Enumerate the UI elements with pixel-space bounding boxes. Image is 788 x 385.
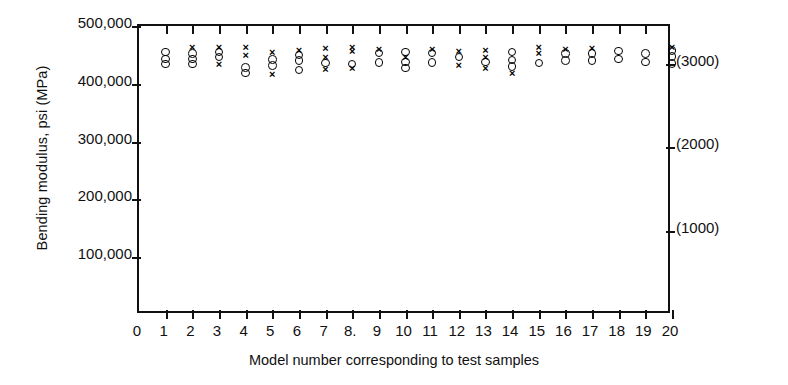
x-axis-tick-top [539,26,541,34]
y-axis-tick-label: 200,000 [52,187,132,204]
y-axis-tick-label: 500,000 [52,14,132,31]
data-point-circle [588,56,597,65]
data-point-circle [561,56,570,65]
x-axis-tick [592,310,594,319]
x-axis-tick-top [459,26,461,34]
secondary-y-axis-tick [666,231,675,233]
secondary-y-axis-tick-label: (1000) [676,219,719,236]
data-point-circle [295,66,304,75]
x-axis-tick [246,310,248,319]
x-axis-tick-top [512,26,514,34]
data-point-circle [641,58,650,67]
data-point-cross: × [241,50,251,60]
x-axis-tick-top [565,26,567,34]
data-point-circle [161,60,170,69]
secondary-y-axis-tick [666,147,675,149]
data-point-cross: × [374,44,384,54]
data-point-circle [295,56,304,65]
data-point-cross: × [427,44,437,54]
data-point-circle [668,59,677,68]
y-axis-tick [132,84,141,86]
x-axis-tick [272,310,274,319]
x-axis-tick [672,310,674,319]
data-point-cross: × [560,44,570,54]
data-point-circle [614,47,623,56]
x-axis-tick [432,310,434,319]
x-axis-tick-top [272,26,274,34]
x-axis-tick [485,310,487,319]
data-point-cross: × [587,43,597,53]
secondary-y-axis-tick-label: (2000) [676,135,719,152]
x-axis-tick [192,310,194,319]
y-axis-tick-label: 100,000 [52,245,132,262]
y-axis-tick [132,26,141,28]
x-axis-tick-top [406,26,408,34]
x-axis-tick [352,310,354,319]
y-axis-tick [132,199,141,201]
data-point-circle [188,60,197,69]
y-axis-tick [132,257,141,259]
data-point-circle [641,49,650,58]
y-axis-tick-label: 300,000 [52,130,132,147]
x-axis-tick [512,310,514,319]
data-point-cross: × [267,69,277,79]
x-axis-tick-top [592,26,594,34]
x-axis-tick-label: 20 [653,322,687,339]
x-axis-tick [379,310,381,319]
x-axis-tick [166,310,168,319]
x-axis-tick-top [485,26,487,34]
y-axis-tick-label: 400,000 [52,72,132,89]
data-point-cross: × [401,52,411,62]
data-point-cross: × [214,59,224,69]
data-point-circle [535,59,544,68]
data-point-cross: × [214,42,224,52]
data-point-cross: × [347,46,357,56]
x-axis-title: Model number corresponding to test sampl… [0,352,788,368]
secondary-y-axis-tick-label: (3000) [676,52,719,69]
data-point-circle [428,58,437,67]
data-point-cross: × [294,45,304,55]
x-axis-tick-top [166,26,168,34]
x-axis-title-text: Model number corresponding to test sampl… [249,352,539,368]
x-axis-tick-top [379,26,381,34]
data-point-cross: × [347,63,357,73]
data-point-cross: × [480,52,490,62]
x-axis-tick-top [352,26,354,34]
data-point-cross: × [321,64,331,74]
data-point-cross: × [534,48,544,58]
x-axis-tick [459,310,461,319]
data-point-circle [401,64,410,73]
data-point-cross: × [507,68,517,78]
x-axis-tick [539,310,541,319]
x-axis-tick [565,310,567,319]
x-axis-tick [299,310,301,319]
data-point-cross: × [321,52,331,62]
x-axis-tick-top [619,26,621,34]
x-axis-tick-top [432,26,434,34]
data-point-cross: × [454,46,464,56]
data-point-cross: × [454,60,464,70]
plot-area: ×××××××××××××××××××××××××××× [137,24,670,313]
x-axis-tick-top [326,26,328,34]
data-point-circle [375,58,384,67]
y-axis-tick [132,142,141,144]
x-axis-tick-top [246,26,248,34]
x-axis-tick [619,310,621,319]
x-axis-tick [326,310,328,319]
data-point-cross: × [480,63,490,73]
x-axis-tick-top [192,26,194,34]
data-point-circle [241,69,250,78]
x-axis-tick-labels: 012345678.91011121314151617181920 [0,322,788,344]
x-axis-tick-top [299,26,301,34]
data-point-circle [508,48,517,57]
data-point-cross: × [267,47,277,57]
data-point-cross: × [187,42,197,52]
x-axis-tick-top [219,26,221,34]
x-axis-tick [406,310,408,319]
x-axis-tick [219,310,221,319]
x-axis-tick-top [645,26,647,34]
data-point-circle [614,55,623,64]
bending-modulus-scatter-chart: Bending modulus, psi (MPa) 100,000200,00… [0,0,788,385]
x-axis-tick [645,310,647,319]
